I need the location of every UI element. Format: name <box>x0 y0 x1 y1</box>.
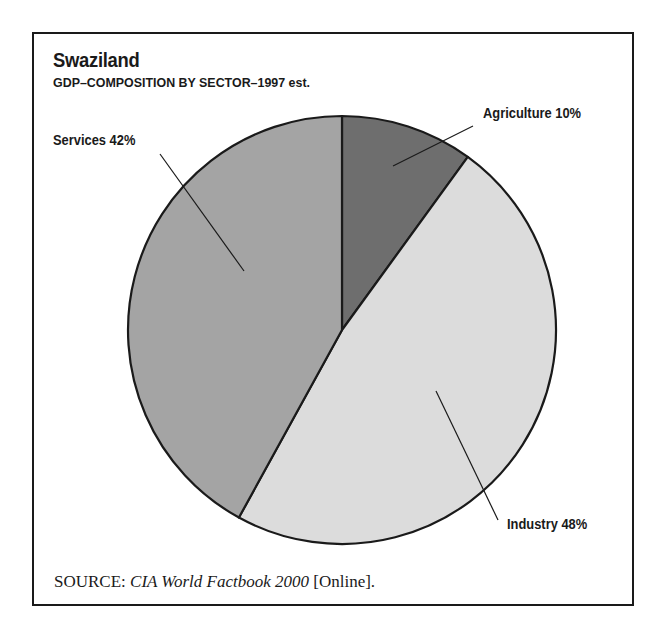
industry-label: Industry 48% <box>507 516 587 532</box>
source-suffix: [Online]. <box>313 572 375 591</box>
services-label: Services 42% <box>53 132 135 148</box>
source-title: CIA World Factbook 2000 <box>130 572 309 591</box>
agriculture-label: Agriculture 10% <box>483 105 581 121</box>
source-note: SOURCE: CIA World Factbook 2000 [Online]… <box>54 572 375 592</box>
source-prefix: SOURCE: <box>54 572 126 591</box>
pie-chart <box>0 0 671 634</box>
